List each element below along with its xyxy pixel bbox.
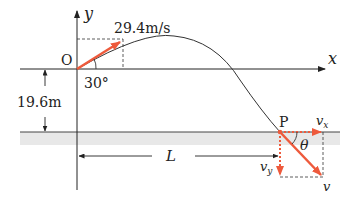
distance-label: L [165, 147, 176, 165]
landing-point [278, 130, 283, 135]
vy-label: vy [260, 159, 273, 176]
projectile-diagram: x y O 30° 29.4m/s 19.6m L P θ vx vy v [0, 0, 360, 197]
x-axis-label: x [328, 49, 337, 68]
height-label: 19.6m [17, 94, 61, 110]
v-label: v [323, 179, 331, 194]
y-axis-label: y [83, 4, 94, 23]
launch-angle-label: 30° [84, 75, 109, 91]
launch-velocity-vector [77, 42, 120, 69]
launch-speed-label: 29.4m/s [114, 20, 170, 36]
launch-angle-arc [94, 59, 96, 69]
landing-angle-label: θ [300, 137, 309, 153]
vx-label: vx [316, 113, 328, 130]
landing-point-label: P [279, 114, 288, 130]
origin-label: O [61, 52, 72, 68]
